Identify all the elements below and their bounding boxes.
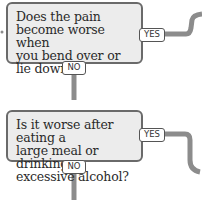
question-box-2: Is it worse after eating a large meal or… <box>6 110 143 162</box>
question-1-yes-tag: YES <box>139 28 165 42</box>
q1-yes-connector <box>164 14 202 34</box>
question-1-line-2: become worse when <box>16 23 141 49</box>
question-2-yes-tag: YES <box>139 128 165 142</box>
question-2-no-tag: NO <box>62 160 86 174</box>
incoming-arrow-tip <box>1 31 4 34</box>
q2-yes-connector <box>164 134 200 172</box>
question-box-1: Does the pain become worse when you bend… <box>6 2 143 64</box>
question-1-no-tag: NO <box>62 61 86 75</box>
question-2-line-1: Is it worse after eating a <box>16 118 141 144</box>
